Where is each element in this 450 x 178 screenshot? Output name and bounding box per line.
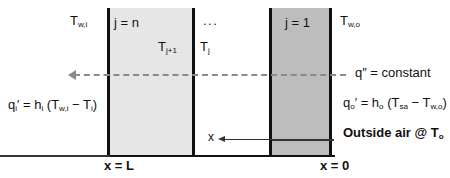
t-subscript: w,o: [348, 20, 360, 29]
open-paren-t: (T: [43, 97, 59, 112]
minus-t: − T: [408, 95, 431, 110]
t-symbol: T: [70, 13, 78, 28]
heat-flux-dashed-line: [74, 74, 346, 76]
annotation-outside-air: Outside air @ To: [343, 126, 444, 141]
annotation-inner-flux-equation: qi′ = hi (Tw,i − Ti): [8, 98, 97, 113]
t-symbol: T: [158, 39, 166, 54]
figure-caption: [0, 171, 450, 178]
label-node-1: j = 1: [285, 16, 310, 29]
two-subscript: w,o: [431, 102, 443, 111]
tsa-subscript: sa: [399, 102, 408, 111]
label-t-j: Tj: [200, 40, 210, 55]
to-subscript: o: [439, 132, 444, 141]
wall-block-node-n: [107, 8, 195, 157]
x-dimension-arrowhead-icon: [218, 136, 225, 142]
outside-air-text: Outside air @ T: [343, 125, 439, 140]
x-dimension-line: [224, 139, 332, 140]
t-subscript: w,i: [78, 20, 87, 29]
label-t-j-plus-1: Tj+1: [158, 40, 177, 55]
close-paren: ): [443, 95, 447, 110]
diagram-canvas: Tw,i j = n Tj+1 ... Tj j = 1 Tw,o q″ = c…: [0, 0, 450, 178]
close-paren: ): [93, 97, 97, 112]
annotation-outer-flux-equation: qo′ = ho (Tsa − Tw,o): [343, 96, 447, 111]
label-x: x: [208, 131, 214, 143]
t-symbol: T: [340, 13, 348, 28]
flux-constant-text: = constant: [367, 65, 431, 80]
annotation-flux-constant: q″ = constant: [355, 66, 431, 79]
label-node-n: j = n: [114, 16, 139, 29]
wall-block-middle: [195, 8, 272, 157]
t-subscript: j: [208, 46, 210, 55]
wall-block-node-1: [272, 8, 332, 157]
label-t-wall-outer: Tw,o: [340, 14, 360, 29]
equals-h: = h: [19, 97, 41, 112]
label-ellipsis: ...: [203, 14, 218, 27]
t-symbol: T: [200, 39, 208, 54]
label-t-wall-inner: Tw,i: [70, 14, 87, 29]
open-paren-t: (T: [384, 95, 400, 110]
t-subscript: j+1: [166, 46, 177, 55]
minus-t: − T: [68, 97, 91, 112]
wall-baseline: [107, 155, 335, 157]
equals-h: = h: [357, 95, 379, 110]
x-axis-base-rule: [0, 155, 110, 157]
